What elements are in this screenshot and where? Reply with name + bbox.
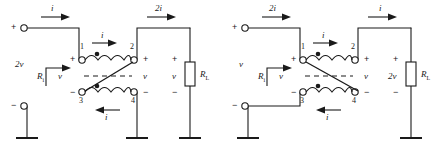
left-primary-coil: [85, 56, 131, 61]
right-terminal-1-label: 1: [301, 43, 305, 51]
right-output-current-label: i: [379, 4, 382, 13]
left-terminal-3-label: 3: [79, 97, 83, 105]
right-input-minus-sign: −: [232, 101, 237, 110]
right-secondary-coil: [306, 88, 352, 93]
left-input-plus-sign: +: [11, 23, 16, 32]
right-primary-plus-sign: +: [291, 55, 296, 64]
left-load-minus-sign: −: [172, 88, 177, 97]
left-input-port-voltage-label: v: [58, 72, 62, 81]
right-terminal-2-label: 2: [351, 43, 355, 51]
right-terminal-3-node: [300, 89, 306, 95]
right-load-plus-sign: +: [393, 55, 398, 64]
left-load-voltage-label: v: [172, 72, 176, 81]
left-coil-top-current-label: i: [101, 31, 104, 40]
left-crossover-diagonal-3-to-2: [85, 62, 133, 91]
left-terminal-4-node: [131, 89, 137, 95]
left-input-current-label: i: [51, 4, 54, 13]
right-input-current-label: 2i: [269, 4, 276, 13]
left-load-plus-sign: +: [172, 55, 177, 64]
left-input-positive-terminal: [21, 25, 27, 31]
right-source-voltage-label: v: [239, 60, 243, 69]
right-input-plus-sign: +: [232, 23, 237, 32]
right-terminal-1-node: [300, 57, 306, 63]
right-circuit-drawing: [221, 0, 442, 149]
figure-canvas: + − i 2i i i 2v Ri v + − + − v 1 2 3 4 +…: [0, 0, 442, 149]
right-input-port-voltage-label: v: [279, 72, 283, 81]
left-terminal-4-label: 4: [131, 97, 135, 105]
left-secondary-coil: [85, 88, 131, 93]
left-primary-dot: [95, 52, 100, 57]
right-secondary-dot: [316, 84, 321, 89]
left-load-resistor-symbol: [185, 62, 195, 86]
left-primary-minus-sign: −: [70, 88, 75, 97]
left-secondary-plus-sign: +: [143, 55, 148, 64]
left-input-resistance-label: Ri: [37, 72, 44, 83]
right-primary-coil: [306, 56, 352, 61]
right-input-negative-terminal: [242, 103, 248, 109]
left-terminal-3-node: [79, 89, 85, 95]
left-terminal-2-label: 2: [130, 43, 134, 51]
right-terminal-4-label: 4: [352, 97, 356, 105]
left-source-voltage-label: 2v: [15, 60, 24, 69]
right-secondary-plus-sign: +: [364, 55, 369, 64]
left-terminal-1-label: 1: [80, 43, 84, 51]
left-input-minus-sign: −: [11, 101, 16, 110]
right-load-resistor-symbol: [406, 62, 416, 86]
right-load-resistor-label: RL: [421, 70, 430, 81]
right-input-positive-terminal: [242, 25, 248, 31]
left-output-current-label: 2i: [155, 4, 162, 13]
left-secondary-minus-sign: −: [143, 88, 148, 97]
right-load-voltage-label: 2v: [388, 72, 397, 81]
left-load-resistor-label: RL: [200, 70, 209, 81]
left-circuit-drawing: [0, 0, 221, 149]
right-secondary-minus-sign: −: [364, 88, 369, 97]
right-terminal-2-node: [352, 57, 358, 63]
left-primary-plus-sign: +: [70, 55, 75, 64]
left-terminal-1-node: [79, 57, 85, 63]
right-coil-top-current-label: i: [322, 31, 325, 40]
right-primary-minus-sign: −: [291, 88, 296, 97]
right-primary-dot: [316, 52, 321, 57]
right-secondary-voltage-label: v: [364, 72, 368, 81]
right-terminal-3-label: 3: [300, 97, 304, 105]
left-input-negative-terminal: [21, 103, 27, 109]
right-coil-bottom-current-label: i: [326, 113, 329, 122]
right-load-minus-sign: −: [393, 88, 398, 97]
right-input-resistance-label: Ri: [258, 72, 265, 83]
left-coil-bottom-current-label: i: [105, 113, 108, 122]
left-secondary-voltage-label: v: [143, 72, 147, 81]
